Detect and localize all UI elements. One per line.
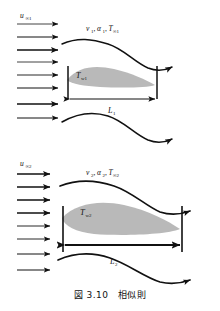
- svg-text:w2: w2: [86, 213, 93, 218]
- svg-text:,: ,: [105, 168, 107, 177]
- svg-text:∞2: ∞2: [113, 173, 120, 178]
- svg-text:,: ,: [105, 24, 107, 33]
- freestream-velocity-sub-2: ∞2: [26, 164, 33, 169]
- svg-text:,: ,: [94, 168, 96, 177]
- freestream-velocity-label-1: u: [20, 11, 24, 20]
- svg-text:w1: w1: [81, 76, 88, 81]
- freestream-velocity-label-2: u: [20, 159, 24, 168]
- similarity-law-figure: u ∞1 ν 1 , α 1 , T ∞1: [0, 0, 220, 311]
- freestream-velocity-sub-1: ∞1: [26, 16, 33, 21]
- svg-text:∞1: ∞1: [113, 29, 120, 34]
- figure-caption: 図 3.10 相似則: [0, 288, 220, 301]
- svg-text:,: ,: [94, 24, 96, 33]
